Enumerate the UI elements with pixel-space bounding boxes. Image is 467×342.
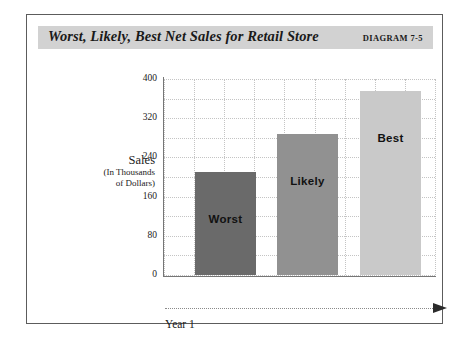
- gridline-vertical: [345, 79, 346, 275]
- bar-label-worst: Worst: [195, 213, 256, 225]
- title-banner: Worst, Likely, Best Net Sales for Retail…: [38, 26, 433, 49]
- gridline-vertical: [164, 79, 165, 275]
- y-tick-160: 160: [143, 191, 157, 201]
- page-title: Worst, Likely, Best Net Sales for Retail…: [48, 28, 319, 45]
- diagram-number-label: DIAGRAM 7-5: [363, 33, 423, 43]
- y-tick-240: 240: [143, 151, 157, 161]
- y-tick-320: 320: [143, 112, 157, 122]
- bar-label-best: Best: [360, 132, 421, 144]
- bar-likely: Likely: [277, 134, 338, 275]
- y-tick-400: 400: [143, 73, 157, 83]
- timeline-dotted-line: [165, 308, 437, 309]
- plot-area: WorstLikelyBest: [164, 79, 435, 275]
- x-axis-category-label: Year 1: [165, 318, 195, 330]
- gridline-vertical: [435, 79, 436, 275]
- bar-label-likely: Likely: [277, 175, 338, 187]
- y-axis-tick-labels: 080160240320400: [113, 15, 157, 342]
- y-tick-0: 0: [152, 269, 157, 279]
- figure-frame: Worst, Likely, Best Net Sales for Retail…: [26, 14, 443, 324]
- gridline-horizontal: [164, 79, 435, 80]
- bar-best: Best: [360, 91, 421, 275]
- arrow-right-icon: [433, 303, 447, 313]
- y-tick-80: 80: [148, 230, 158, 240]
- timeline-arrow-group: [165, 303, 453, 315]
- gridline-horizontal: [164, 275, 435, 276]
- bar-worst: Worst: [195, 172, 256, 275]
- x-axis-line: [163, 276, 436, 277]
- diagram-figure: Worst, Likely, Best Net Sales for Retail…: [0, 0, 467, 342]
